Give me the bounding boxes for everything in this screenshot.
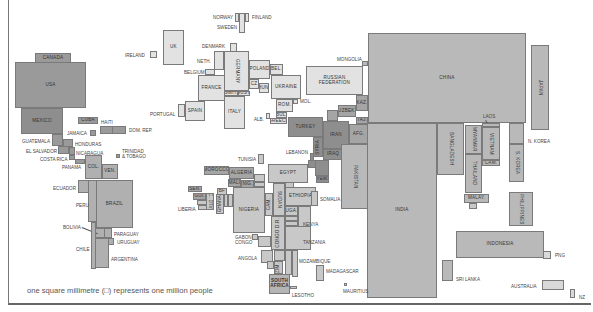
country-mexico: MEXICO bbox=[21, 108, 63, 134]
country-cameroon: CAM. bbox=[265, 193, 273, 216]
country-cz: CZ bbox=[249, 79, 259, 89]
label-honduras: HONDURAS bbox=[75, 142, 101, 147]
country-n-korea bbox=[509, 123, 524, 144]
label-jamaica: JAMAICA bbox=[67, 131, 87, 136]
label-haiti: HAITI bbox=[101, 120, 113, 125]
country-zambia bbox=[274, 250, 285, 261]
country-malay: MALAY. bbox=[464, 194, 489, 203]
label-portugal: PORTUGAL bbox=[150, 112, 175, 117]
label-somalia: SOMALIA bbox=[320, 197, 340, 202]
label-gabon: GABONCONGO bbox=[235, 235, 252, 246]
country-sen: SEN. bbox=[188, 186, 202, 192]
country-lesotho bbox=[290, 286, 297, 289]
country-sudan: SUDAN bbox=[273, 183, 285, 216]
country-trinidad bbox=[116, 154, 120, 158]
label-lebanon: LEBANON bbox=[286, 150, 308, 155]
country-s-korea: S. KOREA bbox=[509, 144, 524, 182]
country-germany: GERMANY bbox=[224, 51, 249, 91]
label-paraguay: PARAGUAY bbox=[114, 232, 139, 237]
label-nz: NZ bbox=[579, 295, 585, 300]
country-neth bbox=[214, 51, 224, 70]
country-saudi bbox=[315, 160, 329, 176]
country-finland bbox=[245, 13, 249, 22]
label-chile: CHILE bbox=[76, 247, 90, 252]
label-dom-rep: DOM. REP. bbox=[129, 128, 152, 133]
label-argentina: ARGENTINA bbox=[111, 257, 138, 262]
label-peru: PERU bbox=[76, 203, 89, 208]
country-china: CHINA bbox=[368, 33, 526, 123]
label-laos: LAOS bbox=[483, 114, 495, 119]
country-rom: ROM. bbox=[276, 99, 293, 112]
country-mozambique bbox=[292, 250, 298, 277]
country-turkey: TURKEY bbox=[288, 117, 323, 137]
country-el-salvador bbox=[58, 146, 69, 154]
country-cdi: C. D'IV. bbox=[206, 193, 214, 210]
label-denmark: DENMARK bbox=[202, 44, 225, 49]
country-japan: JAPAN bbox=[531, 45, 549, 130]
country-singapore bbox=[469, 203, 477, 209]
label-mol: MOL. bbox=[300, 99, 311, 104]
country-philippines: PHILIPPINES bbox=[509, 192, 533, 226]
label-lesotho: LESOTHO bbox=[292, 293, 314, 298]
label-neth: NETH. bbox=[197, 59, 211, 64]
country-jamaica bbox=[90, 130, 96, 136]
country-australia bbox=[542, 280, 564, 290]
country-congo-dr: CONGO D.R. bbox=[271, 216, 285, 250]
country-poland: POLAND bbox=[249, 60, 270, 79]
country-indonesia: INDONESIA bbox=[456, 231, 544, 258]
country-russia: RUSSIANFEDERATION bbox=[306, 66, 363, 95]
country-myanmar: MYANMAR bbox=[465, 125, 482, 154]
label-el-salvador: EL SALVADOR bbox=[26, 149, 57, 154]
country-sri-lanka bbox=[442, 260, 453, 281]
country-pakistan: PAKISTAN bbox=[341, 144, 368, 209]
country-mol bbox=[293, 99, 298, 104]
country-vietnam: VIETNAM bbox=[482, 127, 500, 160]
label-liberia: LIBERIA bbox=[178, 207, 196, 212]
label-tunisia: TUNISIA bbox=[238, 157, 256, 162]
country-yem: YEM. bbox=[316, 176, 329, 183]
country-syria: SYRIA bbox=[313, 137, 323, 157]
country-usa: USA bbox=[15, 62, 86, 108]
country-nigeria: NIGERIA bbox=[233, 187, 265, 233]
label-guatemala: GUATEMALA bbox=[22, 139, 50, 144]
country-france: FRANCE bbox=[198, 75, 225, 101]
country-india: INDIA bbox=[367, 123, 437, 298]
country-ven: VEN. bbox=[102, 164, 118, 179]
country-algeria: ALGERIA bbox=[229, 167, 254, 179]
country-cam: CAM. bbox=[482, 160, 500, 166]
label-n-korea: N. KOREA bbox=[528, 139, 550, 144]
country-spain: SPAIN bbox=[185, 101, 205, 121]
country-alb bbox=[266, 113, 270, 119]
label-finland: FINLAND bbox=[252, 15, 272, 20]
label-ireland: IRELAND bbox=[125, 53, 145, 58]
label-uruguay: URUGUAY bbox=[117, 240, 140, 245]
country-greece: GREECE bbox=[270, 118, 287, 124]
scale-legend: one square millimetre (□) represents one… bbox=[27, 286, 213, 295]
country-ukraine: UKRAINE bbox=[271, 75, 301, 99]
country-malawi bbox=[285, 250, 292, 275]
label-angola: ANGOLA bbox=[238, 256, 257, 261]
country-brazil: BRAZIL bbox=[96, 180, 133, 228]
label-tanzania: TANZANIA bbox=[303, 240, 325, 245]
country-libya bbox=[254, 174, 265, 182]
country-portugal bbox=[178, 104, 185, 117]
country-congo bbox=[258, 236, 271, 247]
country-iraq: IRAQ bbox=[323, 149, 343, 160]
country-nicaragua bbox=[69, 147, 75, 155]
label-png: PNG bbox=[555, 253, 565, 258]
country-hun: HUN. bbox=[259, 83, 269, 93]
country-argentina bbox=[95, 238, 109, 268]
country-morocco: MOROCCO bbox=[204, 166, 229, 175]
country-dom-rep bbox=[112, 126, 126, 134]
label-bolivia: BOLIVIA bbox=[63, 225, 81, 230]
label-sweden: SWEDEN bbox=[217, 25, 237, 30]
label-costa-rica: COSTA RICA bbox=[40, 157, 67, 162]
country-kaz: KAZ. bbox=[356, 95, 368, 111]
country-bangladesh: BANGLADESH bbox=[437, 123, 464, 175]
country-ghana: GHANA bbox=[216, 194, 224, 214]
country-guatemala bbox=[52, 134, 63, 146]
country-uzbek: UZBEK. bbox=[338, 105, 356, 117]
country-ireland bbox=[150, 51, 157, 58]
label-sri-lanka: SRI LANKA bbox=[456, 277, 480, 282]
country-namibia bbox=[267, 261, 274, 269]
